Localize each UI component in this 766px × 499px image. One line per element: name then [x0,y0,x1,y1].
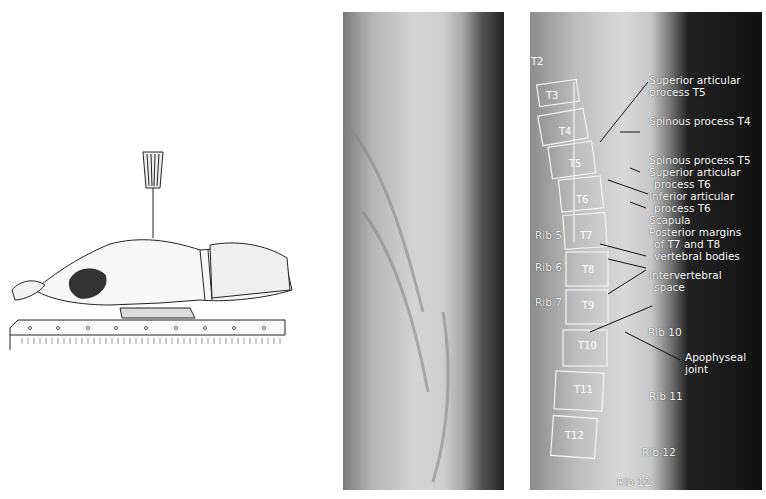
label-superior-articular-t6-line1: Superior articular [649,167,741,178]
label-intervertebral-line2: space [654,282,685,293]
vertebra-label-t9: T9 [582,300,594,311]
patient-lying-lateral-icon [0,140,300,360]
vertebra-label-t10: T10 [578,340,597,351]
rib-label-10: Rib 10 [648,327,682,338]
label-superior-articular-t5-line1: Superior articular [649,75,741,86]
label-posterior-margins-line3: vertebral bodies [654,251,740,262]
vertebra-label-t3: T3 [546,90,558,101]
label-inferior-articular-t6-line1: Inferior articular [649,191,734,202]
label-apophyseal-joint-line1: Apophyseal [685,352,746,363]
label-spinous-process-t4: Spinous process T4 [649,116,751,127]
label-apophyseal-joint-line2: joint [685,364,708,375]
rib-label-11: Rib 11 [649,391,683,402]
label-scapula: Scapula [649,215,691,226]
patient-positioning-illustration [0,140,300,360]
vertebra-label-t6: T6 [576,194,588,205]
rib-label-12b: Rib 12 [617,477,651,488]
vertebra-label-t4: T4 [559,126,571,137]
label-intervertebral-line1: Intervertebral [649,270,722,281]
label-posterior-margins-line1: Posterior margins [649,227,741,238]
vertebra-label-t5: T5 [569,158,581,169]
rib-label-5: Rib 5 [535,230,562,241]
label-spinous-process-t5: Spinous process T5 [649,155,751,166]
rib-label-7: Rib 7 [535,297,562,308]
labeled-thoracic-radiograph: T2 T3 T4 T5 T6 T7 T8 T9 T10 T11 T12 Rib … [530,12,762,490]
lateral-thoracic-radiograph [343,12,504,490]
label-posterior-margins-line2: of T7 and T8 [654,239,720,250]
vertebra-label-t7: T7 [580,230,592,241]
rib-label-12a: Rib 12 [642,447,676,458]
vertebra-label-t8: T8 [582,264,594,275]
vertebra-label-t2: T2 [531,56,543,67]
rib-label-6: Rib 6 [535,262,562,273]
label-superior-articular-t5-line2: process T5 [649,87,706,98]
label-superior-articular-t6-line2: process T6 [654,179,711,190]
vertebra-label-t11: T11 [574,384,593,395]
label-inferior-articular-t6-line2: process T6 [654,203,711,214]
vertebra-label-t12: T12 [565,430,584,441]
